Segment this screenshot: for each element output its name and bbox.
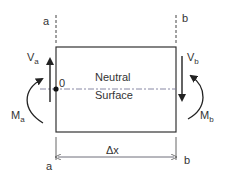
label-section-a-top: a: [43, 15, 50, 27]
moment-arrow-ma: [27, 79, 43, 123]
label-mb: Mb: [200, 109, 214, 124]
label-origin: 0: [59, 77, 65, 89]
label-vb: Vb: [187, 51, 199, 66]
label-ma: Ma: [11, 109, 25, 124]
label-va-subscript: a: [34, 57, 39, 66]
label-section-a-bottom: a: [46, 160, 53, 172]
origin-point: [53, 86, 58, 91]
label-surface: Surface: [95, 89, 133, 101]
label-ma-symbol: M: [11, 109, 20, 121]
label-section-b-top: b: [182, 12, 188, 24]
label-neutral: Neutral: [95, 71, 130, 83]
label-section-b-bottom: b: [184, 154, 190, 166]
beam-element-diagram: a b Va Vb 0 Neutral Surface Ma Mb Δx a b: [0, 0, 226, 177]
label-delta-x: Δx: [106, 144, 119, 156]
label-vb-subscript: b: [194, 57, 199, 66]
label-ma-subscript: a: [20, 115, 25, 124]
label-mb-subscript: b: [209, 115, 214, 124]
label-va: Va: [27, 51, 39, 66]
label-mb-symbol: M: [200, 109, 209, 121]
